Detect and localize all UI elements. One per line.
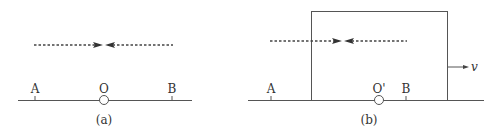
caption-a: (a) [96,113,113,127]
label-o: O [99,82,109,96]
caption-b: (b) [360,113,377,127]
label-a: A [266,82,276,96]
velocity-label: v [471,60,478,74]
label-b: B [168,82,177,96]
velocity-arrow-icon [463,65,469,69]
panel-b: v A O' B (b) [248,12,484,128]
diagram-canvas: A O B (a) v A O' B (b) [0,0,492,135]
source-circle [100,96,109,105]
label-a: A [30,82,40,96]
panel-a: A O B (a) [18,42,192,127]
label-b: B [402,82,411,96]
source-circle [375,96,384,105]
label-o-prime: O' [372,82,385,96]
